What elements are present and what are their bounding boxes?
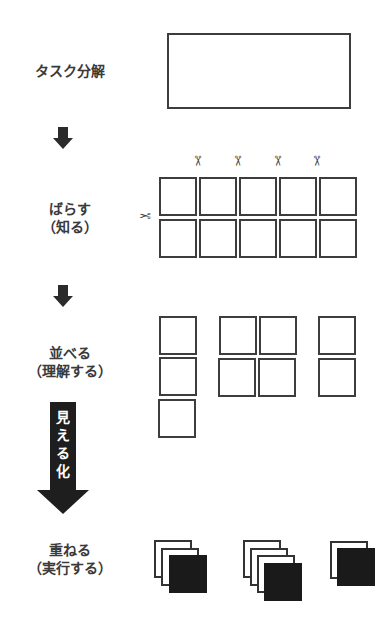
task-piece bbox=[159, 177, 197, 216]
task-piece bbox=[318, 358, 356, 397]
whole-task-box bbox=[167, 33, 351, 109]
task-piece bbox=[258, 358, 296, 397]
task-piece bbox=[239, 177, 277, 216]
scissors-icon: ✂ bbox=[310, 155, 324, 167]
task-piece bbox=[159, 316, 197, 355]
scissors-icon: ✂ bbox=[231, 155, 245, 167]
step-label-stack: 重ねる （実行する） bbox=[15, 541, 125, 577]
task-piece bbox=[239, 219, 277, 258]
task-piece bbox=[199, 219, 237, 258]
active-sheet bbox=[337, 548, 375, 586]
scissors-icon: ✂ bbox=[191, 155, 205, 167]
task-piece bbox=[279, 177, 317, 216]
step-label-decompose: タスク分解 bbox=[20, 62, 120, 80]
task-piece bbox=[159, 219, 197, 258]
step-label-split: ばらす （知る） bbox=[20, 200, 120, 236]
active-sheet bbox=[169, 555, 207, 593]
step-label-arrange: 並べる （理解する） bbox=[15, 344, 125, 380]
split-title: ばらす bbox=[20, 200, 120, 218]
task-piece bbox=[219, 316, 257, 355]
scissors-icon: ✂ bbox=[139, 209, 151, 223]
task-piece bbox=[279, 219, 317, 258]
active-sheet bbox=[264, 563, 302, 601]
stack-subtitle: （実行する） bbox=[15, 559, 125, 577]
arrange-title: 並べる bbox=[15, 344, 125, 362]
task-piece bbox=[319, 219, 357, 258]
task-piece bbox=[259, 316, 297, 355]
task-piece bbox=[199, 177, 237, 216]
task-piece bbox=[318, 316, 356, 355]
scissors-icon: ✂ bbox=[271, 155, 285, 167]
task-piece bbox=[218, 358, 256, 397]
down-arrow-icon bbox=[53, 127, 73, 149]
arrange-subtitle: （理解する） bbox=[15, 362, 125, 380]
stack-title: 重ねる bbox=[15, 541, 125, 559]
task-piece bbox=[158, 399, 196, 438]
down-arrow-icon bbox=[53, 285, 73, 307]
task-piece bbox=[319, 177, 357, 216]
split-subtitle: （知る） bbox=[20, 218, 120, 236]
task-piece bbox=[159, 357, 197, 396]
visualize-arrow-text: 見 え る 化 bbox=[50, 408, 76, 480]
